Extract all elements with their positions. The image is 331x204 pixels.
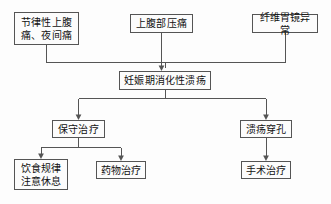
node-surgical-treatment[interactable]: 手术治疗 [241, 161, 291, 179]
node-label: 溃疡穿孔 [246, 123, 287, 136]
node-conservative-treatment[interactable]: 保守治疗 [52, 120, 105, 138]
node-label: 节律性上腹 痛、夜间痛 [21, 16, 72, 42]
node-ulcer-perforation[interactable]: 溃疡穿孔 [240, 120, 292, 138]
node-label: 上腹部压痛 [136, 17, 187, 30]
edge-gastroscopy-to-bus [165, 33, 286, 63]
node-label: 纤维胃镜异常 [255, 11, 315, 37]
node-diagnosis-pregnancy-peptic-ulcer[interactable]: 妊娠期消化性溃疡 [119, 71, 211, 90]
node-epigastric-tenderness[interactable]: 上腹部压痛 [130, 14, 193, 33]
node-rhythmic-epigastric-pain[interactable]: 节律性上腹 痛、夜间痛 [14, 12, 79, 45]
node-label: 手术治疗 [246, 164, 287, 177]
node-gastroscopy-abnormal[interactable]: 纤维胃镜异常 [252, 14, 318, 33]
node-label: 饮食规律 注意休息 [21, 162, 62, 188]
node-diet-and-rest[interactable]: 饮食规律 注意休息 [14, 159, 68, 190]
node-label: 药物治疗 [101, 164, 142, 177]
node-label: 保守治疗 [58, 123, 99, 136]
edge-rhythmic-pain-to-bus [47, 45, 166, 63]
node-drug-therapy[interactable]: 药物治疗 [96, 161, 146, 179]
node-label: 妊娠期消化性溃疡 [124, 74, 206, 87]
flowchart-canvas: 节律性上腹 痛、夜间痛 上腹部压痛 纤维胃镜异常 妊娠期消化性溃疡 保守治疗 溃… [0, 0, 331, 204]
